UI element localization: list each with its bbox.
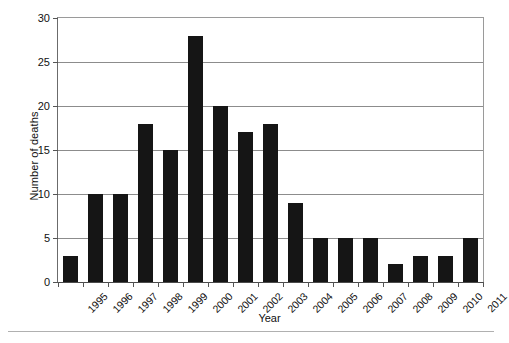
bar <box>338 238 353 282</box>
bar <box>463 238 478 282</box>
x-tick-mark <box>333 282 334 287</box>
y-tick-label: 25 <box>38 56 50 68</box>
y-tick-label: 15 <box>38 144 50 156</box>
x-tick-label: 2011 <box>484 290 508 314</box>
x-tick-mark <box>383 282 384 287</box>
plot-area: 051015202530 199519961997199819992000200… <box>57 17 484 283</box>
x-tick-mark <box>183 282 184 287</box>
bar <box>113 194 128 282</box>
bar <box>263 124 278 282</box>
y-tick-label: 5 <box>44 232 50 244</box>
bar <box>213 106 228 282</box>
x-tick-mark <box>208 282 209 287</box>
x-tick-mark <box>308 282 309 287</box>
y-tick-label: 10 <box>38 188 50 200</box>
x-tick-mark <box>58 282 59 287</box>
bar <box>438 256 453 282</box>
x-tick-mark <box>108 282 109 287</box>
bar <box>138 124 153 282</box>
x-tick-mark <box>408 282 409 287</box>
bar <box>413 256 428 282</box>
y-axis-title: Number of deaths <box>28 56 40 256</box>
x-tick-mark <box>133 282 134 287</box>
y-tick-label: 30 <box>38 12 50 24</box>
x-tick-mark <box>358 282 359 287</box>
footer-divider <box>8 331 494 332</box>
x-axis-title: Year <box>57 312 482 324</box>
x-tick-mark <box>233 282 234 287</box>
bar <box>238 132 253 282</box>
x-tick-mark <box>158 282 159 287</box>
y-tick-label: 0 <box>44 276 50 288</box>
bar <box>163 150 178 282</box>
bar <box>388 264 403 282</box>
x-tick-mark <box>283 282 284 287</box>
x-tick-mark <box>83 282 84 287</box>
x-tick-mark <box>483 282 484 287</box>
bar <box>88 194 103 282</box>
bar <box>188 36 203 282</box>
x-tick-mark <box>458 282 459 287</box>
x-tick-mark <box>433 282 434 287</box>
bar <box>363 238 378 282</box>
y-tick-label: 20 <box>38 100 50 112</box>
bar <box>313 238 328 282</box>
bar <box>288 203 303 282</box>
bar <box>63 256 78 282</box>
x-tick-mark <box>258 282 259 287</box>
bars-layer <box>58 18 483 282</box>
